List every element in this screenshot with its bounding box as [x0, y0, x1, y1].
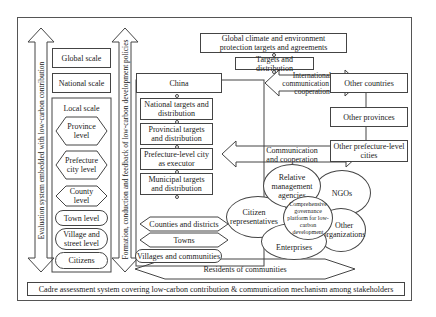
counties-districts: Counties and districts [148, 217, 220, 231]
connector-dot [175, 145, 179, 149]
global-scale-box: Global scale [52, 48, 111, 68]
town-level: Town level [55, 210, 108, 226]
connector-dot [272, 70, 276, 74]
communication-label: Communication and cooperation [240, 147, 344, 162]
connector-dot [272, 53, 276, 57]
connector-dot [175, 94, 179, 98]
prefecture-city-level: Prefecture city level [64, 151, 99, 179]
county-level: County level [62, 186, 101, 206]
other-prefecture-cities-box: Other prefecture-level cities [330, 140, 408, 162]
global-targets-box: Global climate and environment protectio… [200, 33, 347, 53]
cadre-assessment-box: Cadre assessment system covering low-car… [27, 282, 405, 296]
connector-dot [175, 170, 179, 174]
prefecture-executor-box: Prefecture-level city as executor [140, 148, 213, 170]
connector-dot [175, 195, 179, 199]
residents-label: Residents of communities [165, 260, 325, 279]
china-box: China [136, 73, 222, 93]
local-scale-label: Local scale [52, 101, 111, 115]
village-street-level: Village and street level [55, 228, 108, 250]
provincial-targets-box: Provincial targets and distribution [140, 123, 213, 145]
other-provinces-box: Other provinces [330, 107, 408, 127]
evaluation-label: Evaluation system embedded with low-carb… [37, 51, 46, 251]
connector-dot [175, 120, 179, 124]
towns: Towns [148, 233, 220, 247]
governance-platform-ellipse: Comprehensive governance platform for lo… [283, 196, 333, 240]
formation-label: Formation, conduction and feedback of lo… [121, 42, 130, 260]
national-targets-box: National targets and distribution [140, 98, 213, 120]
citizens-level: Citizens [55, 252, 108, 269]
province-level: Province level [66, 117, 97, 145]
municipal-targets-box: Municipal targets and distribution [140, 173, 213, 195]
national-scale-box: National scale [52, 73, 111, 93]
targets-distribution-box: Targets and distribution [235, 57, 314, 70]
other-countries-box: Other countries [330, 73, 408, 93]
